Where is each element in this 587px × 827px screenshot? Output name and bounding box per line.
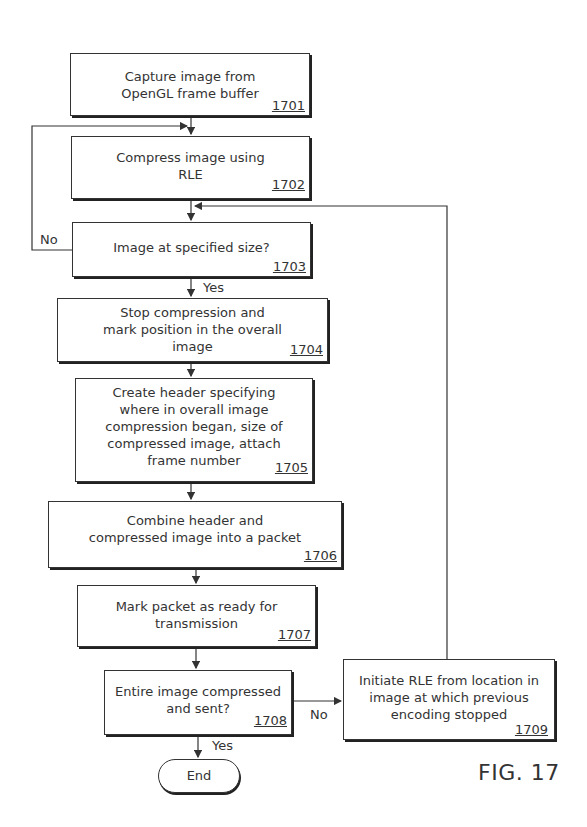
step-ref-number: 1708 [254, 713, 287, 728]
step-ref-number: 1705 [275, 460, 308, 475]
step-text: Image at specified size? [73, 239, 310, 256]
terminal-end: End [158, 759, 240, 793]
step-ref-number: 1703 [273, 259, 306, 274]
step-1706-combine-packet: Combine header and compressed image into… [48, 501, 342, 568]
step-ref-number: 1701 [272, 98, 305, 113]
step-ref-number: 1704 [290, 342, 323, 357]
step-ref-number: 1702 [272, 177, 305, 192]
step-text: Entire image compressed and sent? [105, 683, 291, 717]
step-text: Initiate RLE from location in image at w… [344, 672, 554, 723]
step-ref-number: 1707 [278, 627, 311, 642]
decision-1708-entire-image-sent: Entire image compressed and sent? 1708 [104, 670, 292, 735]
step-1702-compress-rle: Compress image using RLE 1702 [71, 136, 310, 199]
step-text: Combine header and compressed image into… [49, 512, 341, 546]
step-1705-create-header: Create header specifying where in overal… [75, 378, 313, 482]
edge-label-no: No [310, 707, 328, 722]
step-ref-number: 1709 [515, 722, 548, 737]
step-1709-initiate-rle: Initiate RLE from location in image at w… [343, 659, 555, 740]
step-1701-capture-image: Capture image from OpenGL frame buffer 1… [70, 53, 310, 116]
edge-label-no: No [40, 232, 58, 247]
step-text: Stop compression and mark position in th… [58, 304, 327, 355]
figure-label: FIG. 17 [478, 760, 560, 785]
decision-1703-specified-size: Image at specified size? 1703 [72, 222, 311, 277]
step-1704-stop-compression: Stop compression and mark position in th… [57, 298, 328, 362]
step-text: Capture image from OpenGL frame buffer [71, 68, 309, 102]
step-text: Create header specifying where in overal… [76, 384, 312, 469]
edge-label-yes: Yes [203, 280, 224, 295]
step-1707-mark-ready: Mark packet as ready for transmission 17… [77, 585, 316, 647]
step-ref-number: 1706 [304, 548, 337, 563]
edge-label-yes: Yes [212, 738, 233, 753]
